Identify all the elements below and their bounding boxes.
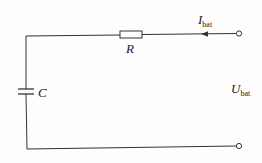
capacitor-label: C <box>38 86 47 99</box>
current-label: Ibat <box>198 13 212 29</box>
current-arrow-icon <box>201 31 208 37</box>
circuit-diagram: Ibat R C Ubat <box>0 0 262 163</box>
resistor-symbol <box>120 31 142 38</box>
circuit-wires <box>0 0 262 163</box>
voltage-label: Ubat <box>231 82 250 98</box>
resistor-label: R <box>126 42 134 55</box>
